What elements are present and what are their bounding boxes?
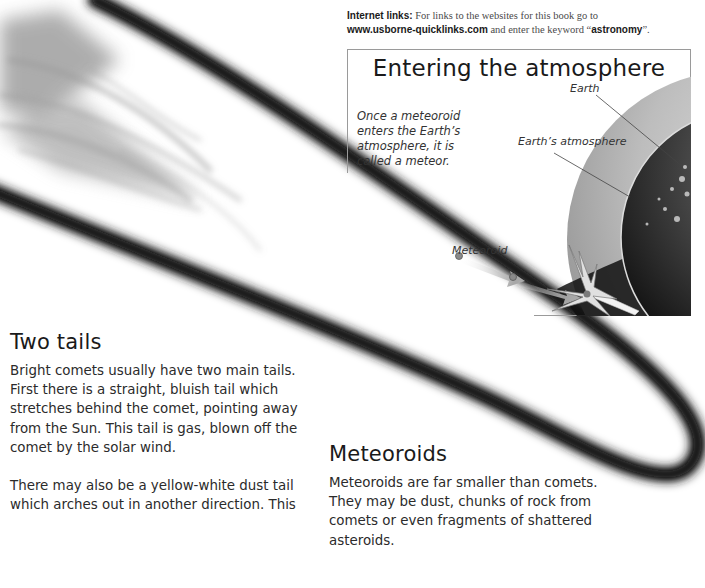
keyword: astronomy <box>591 24 642 35</box>
inset-title: Entering the atmosphere <box>347 55 691 81</box>
label-earths-atmosphere: Earth’s atmosphere <box>518 135 626 148</box>
section-two-tails: Two tails Bright comets usually have two… <box>10 330 310 514</box>
entering-atmosphere-inset: Entering the atmosphere Once a meteoroid… <box>347 49 691 316</box>
heading-two-tails: Two tails <box>10 330 310 354</box>
internet-links-text: For links to the websites for this book … <box>415 10 598 21</box>
paragraph: There may also be a yellow-white dust ta… <box>10 476 310 514</box>
label-meteoroid: Meteoroid <box>452 244 507 257</box>
internet-links-text-middle: and enter the keyword “ <box>490 24 591 35</box>
paragraph: Meteoroids are far smaller than comets. … <box>329 473 629 550</box>
section-meteoroids: Meteoroids Meteoroids are far smaller th… <box>329 442 629 550</box>
atmosphere-diagram <box>347 49 691 316</box>
paragraph: Bright comets usually have two main tail… <box>10 361 310 457</box>
inset-caption: Once a meteoroid enters the Earth’s atmo… <box>357 109 487 169</box>
internet-links-label: Internet links: <box>347 10 413 21</box>
internet-links-text-after: ”. <box>642 24 649 35</box>
internet-links-note: Internet links: For links to the website… <box>347 9 702 37</box>
heading-meteoroids: Meteoroids <box>329 442 629 466</box>
quicklinks-url[interactable]: www.usborne-quicklinks.com <box>347 24 488 35</box>
label-earth: Earth <box>570 82 600 95</box>
